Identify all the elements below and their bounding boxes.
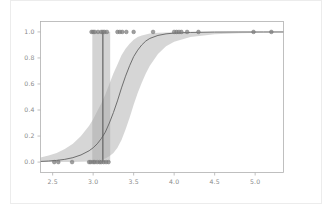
threshold-band-group xyxy=(92,32,110,162)
data-point xyxy=(269,30,273,34)
data-point xyxy=(70,160,74,164)
data-point xyxy=(105,30,109,34)
data-point xyxy=(107,160,111,164)
x-axis-tick-label: 2.5 xyxy=(39,178,67,185)
data-point xyxy=(52,160,56,164)
data-point xyxy=(180,30,184,34)
x-axis-tick-label: 3.0 xyxy=(79,178,107,185)
data-point xyxy=(120,30,124,34)
data-point xyxy=(252,30,256,34)
plot-area: 0.00.20.40.60.81.0 2.53.03.54.04.55.0 xyxy=(0,0,329,213)
threshold-confidence-rect xyxy=(92,32,110,162)
figure-canvas: 0.00.20.40.60.81.0 2.53.03.54.04.55.0 xyxy=(0,0,329,213)
data-point xyxy=(124,30,128,34)
x-axis-tick-label: 3.5 xyxy=(120,178,148,185)
confidence-band-group xyxy=(41,32,284,162)
y-axis-tick-label: 0.6 xyxy=(8,80,35,87)
y-axis-tick-label: 0.4 xyxy=(8,106,35,113)
data-point xyxy=(56,160,60,164)
data-point xyxy=(132,30,136,34)
confidence-band-area xyxy=(41,32,284,162)
y-axis-tick-label: 1.0 xyxy=(8,28,35,35)
x-axis-tick-label: 4.0 xyxy=(160,178,188,185)
x-axis-tick-label: 5.0 xyxy=(241,178,269,185)
data-point xyxy=(185,30,189,34)
y-axis-tick-label: 0.2 xyxy=(8,132,35,139)
data-point xyxy=(151,30,155,34)
x-axis-tick-label: 4.5 xyxy=(201,178,229,185)
y-axis-tick-label: 0.0 xyxy=(8,158,35,165)
y-axis-tick-label: 0.8 xyxy=(8,54,35,61)
data-point xyxy=(197,30,201,34)
